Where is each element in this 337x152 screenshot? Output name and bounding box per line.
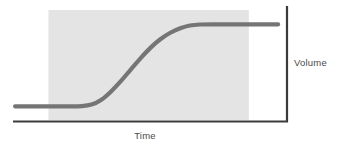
chart-figure: Time Volume <box>0 0 337 152</box>
y-axis-label: Volume <box>294 58 327 68</box>
shaded-region-band <box>48 10 248 120</box>
x-axis-label: Time <box>0 131 290 141</box>
sigmoid-growth-chart <box>0 0 337 152</box>
